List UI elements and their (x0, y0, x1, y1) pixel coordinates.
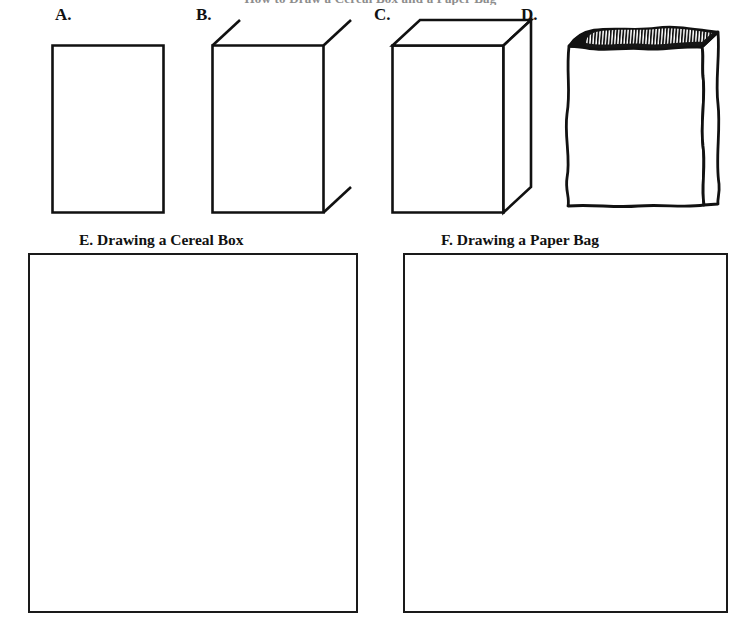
practice-box-e-cereal-box[interactable] (28, 253, 358, 613)
step-figure-b-rectangle-with-guide-lines (200, 14, 370, 226)
practice-caption-f: F. Drawing a Paper Bag (441, 232, 599, 248)
flat-rectangle-icon (40, 32, 180, 227)
step-letter-d: D. (521, 6, 538, 23)
rectangle-with-guide-lines-icon (200, 14, 370, 226)
worksheet-page: How to Draw a Cereal Box and a Paper Bag… (0, 0, 741, 632)
practice-caption-e: E. Drawing a Cereal Box (79, 232, 244, 248)
step-figure-d-crinkled-paper-bag (552, 18, 732, 218)
step-figure-a-flat-rectangle (40, 32, 180, 227)
step-figure-c-three-dimensional-cereal-box (380, 14, 550, 226)
practice-box-f-paper-bag[interactable] (403, 253, 728, 613)
step-letter-a: A. (55, 6, 72, 23)
clipped-page-header: How to Draw a Cereal Box and a Paper Bag (0, 0, 741, 5)
cereal-box-3d-icon (380, 14, 550, 226)
paper-bag-icon (552, 18, 732, 218)
